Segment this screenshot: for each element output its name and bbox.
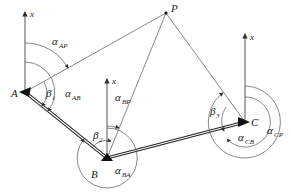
svg-text:β: β	[92, 129, 99, 141]
point-p	[164, 11, 167, 14]
svg-text:3: 3	[215, 112, 220, 120]
label-alpha-ba: α BA	[115, 164, 131, 179]
svg-text:α: α	[238, 131, 244, 143]
svg-text:1: 1	[52, 94, 56, 102]
station-c-marker	[238, 117, 250, 127]
traverse-diagram: x x x A B C P α AP α	[0, 0, 291, 192]
label-alpha-cb: α CB	[238, 131, 255, 146]
label-beta-2: β 2	[92, 129, 103, 144]
traverse-legs	[25, 92, 245, 158]
svg-text:BA: BA	[122, 171, 131, 179]
label-alpha-ab: α AB	[65, 87, 81, 102]
svg-text:x: x	[111, 76, 116, 86]
label-a: A	[10, 87, 18, 99]
sight-lines	[25, 13, 245, 158]
label-alpha-cp: α CP	[267, 124, 284, 139]
label-c: C	[251, 116, 259, 128]
svg-text:2: 2	[99, 136, 103, 144]
label-beta-1: β 1	[45, 87, 56, 102]
label-p: P	[170, 2, 178, 14]
svg-text:α: α	[52, 35, 58, 47]
svg-text:AB: AB	[71, 94, 81, 102]
svg-text:α: α	[65, 87, 71, 99]
svg-text:α: α	[267, 124, 273, 136]
svg-text:CP: CP	[274, 131, 284, 139]
label-alpha-bp: α BP	[115, 91, 131, 106]
svg-text:x: x	[29, 9, 34, 19]
svg-text:CB: CB	[245, 138, 255, 146]
label-alpha-ap: α AP	[52, 35, 68, 50]
svg-text:BP: BP	[122, 98, 131, 106]
axis-c: x	[245, 32, 254, 122]
label-b: B	[91, 168, 98, 180]
axis-b: x	[107, 76, 116, 158]
label-beta-3: β 3	[209, 105, 220, 120]
axis-a: x	[25, 9, 34, 92]
svg-text:x: x	[249, 32, 254, 42]
svg-text:β: β	[209, 105, 216, 117]
svg-text:AP: AP	[58, 42, 68, 50]
svg-text:α: α	[115, 164, 121, 176]
svg-text:α: α	[115, 91, 121, 103]
svg-text:β: β	[45, 87, 52, 99]
